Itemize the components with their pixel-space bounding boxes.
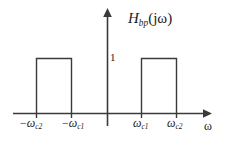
omega-symbol: ω [69, 116, 77, 130]
omega-symbol: ω [27, 116, 35, 130]
y-axis [103, 8, 112, 126]
transfer-function-title: Hbp(jω) [128, 11, 172, 26]
bandpass-filter-figure: Hbp(jω) 1 −ωc2 −ωc1 ωc1 ωc2 ω [0, 0, 229, 141]
positive-passband-rect [142, 59, 177, 119]
minus-sign: − [20, 116, 27, 130]
subscript: c2 [175, 122, 182, 131]
y-axis-arrowhead [103, 8, 112, 17]
subscript: c2 [35, 122, 42, 131]
tick-label-omega-c1: ωc1 [133, 117, 149, 129]
title-argument: (jω) [148, 10, 172, 26]
tick-label-omega-c2: ωc2 [167, 117, 183, 129]
negative-passband-outline [37, 59, 72, 114]
x-axis-label-omega: ω [204, 120, 212, 132]
subscript: c1 [141, 122, 148, 131]
gain-value-label: 1 [110, 52, 116, 63]
minus-sign: − [62, 116, 69, 130]
x-axis-arrowhead [203, 109, 212, 118]
tick-label-neg-omega-c1: −ωc1 [62, 117, 84, 129]
title-symbol: H [128, 10, 139, 26]
positive-passband-outline [142, 59, 177, 114]
tick-label-neg-omega-c2: −ωc2 [20, 117, 42, 129]
subscript: c1 [77, 122, 84, 131]
title-subscript: bp [139, 18, 148, 28]
negative-passband-rect [37, 59, 72, 119]
